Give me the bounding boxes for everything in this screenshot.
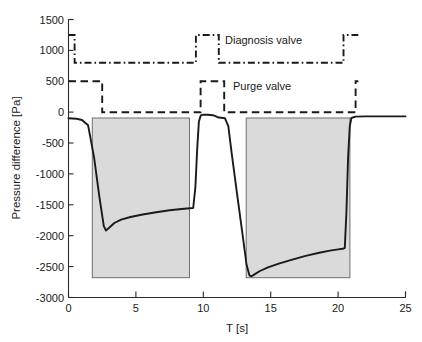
x-tick-marks bbox=[69, 292, 406, 298]
chart-canvas: 1500 1000 500 0 -500 -1000 -1500 -2000 -… bbox=[0, 0, 422, 342]
purge-valve-label: Purge valve bbox=[233, 80, 291, 92]
x-tick-label-15: 15 bbox=[265, 302, 277, 314]
y-tick-label-minus1500: -1500 bbox=[36, 199, 64, 211]
y-tick-label-minus500: -500 bbox=[42, 137, 64, 149]
y-tick-label-minus3000: -3000 bbox=[36, 292, 64, 304]
x-tick-label-20: 20 bbox=[332, 302, 344, 314]
y-tick-label-minus1000: -1000 bbox=[36, 168, 64, 180]
diagnosis-valve-trace bbox=[69, 35, 359, 63]
x-tick-label-5: 5 bbox=[133, 302, 139, 314]
y-tick-label-minus2000: -2000 bbox=[36, 230, 64, 242]
y-tick-label-0: 0 bbox=[58, 106, 64, 118]
purge-valve-trace bbox=[69, 81, 359, 112]
y-axis-title: Pressure difference [Pa] bbox=[10, 96, 22, 219]
y-tick-label-minus2500: -2500 bbox=[36, 261, 64, 273]
y-tick-label-1500: 1500 bbox=[40, 14, 64, 26]
x-axis-title: T [s] bbox=[226, 322, 248, 334]
y-tick-label-500: 500 bbox=[46, 75, 64, 87]
diagnosis-valve-label: Diagnosis valve bbox=[225, 34, 302, 46]
x-tick-labels: 0 5 10 15 20 25 bbox=[65, 302, 411, 314]
x-tick-label-25: 25 bbox=[399, 302, 411, 314]
pressure-difference-chart: 1500 1000 500 0 -500 -1000 -1500 -2000 -… bbox=[0, 0, 422, 342]
x-tick-label-10: 10 bbox=[197, 302, 209, 314]
x-tick-label-0: 0 bbox=[65, 302, 71, 314]
purge-active-region-2 bbox=[246, 118, 350, 278]
y-tick-marks bbox=[69, 20, 74, 298]
y-tick-labels: 1500 1000 500 0 -500 -1000 -1500 -2000 -… bbox=[36, 14, 64, 304]
y-tick-label-1000: 1000 bbox=[40, 44, 64, 56]
purge-active-region-1 bbox=[92, 118, 189, 278]
